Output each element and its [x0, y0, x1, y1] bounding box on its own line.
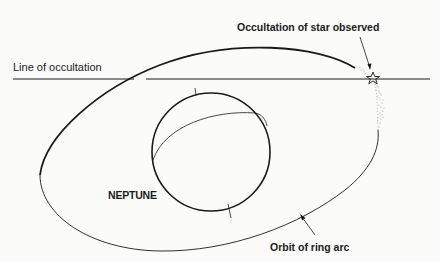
- orbit-pointer-arrow: [300, 214, 315, 235]
- line-of-occultation-label: Line of occultation: [13, 62, 102, 73]
- orbit-label: Orbit of ring arc: [270, 242, 349, 253]
- star-icon: [367, 72, 380, 84]
- diagram-canvas: Line of occultation Occultation of star …: [0, 0, 440, 262]
- neptune-label: NEPTUNE: [108, 190, 157, 201]
- orbit-ellipse: [40, 48, 378, 251]
- stipple-region: [357, 66, 384, 127]
- diagram-drawing: [0, 0, 440, 262]
- neptune-planet: [152, 88, 270, 218]
- star-observed-label: Occultation of star observed: [237, 22, 379, 33]
- star-pointer-arrow: [360, 37, 372, 70]
